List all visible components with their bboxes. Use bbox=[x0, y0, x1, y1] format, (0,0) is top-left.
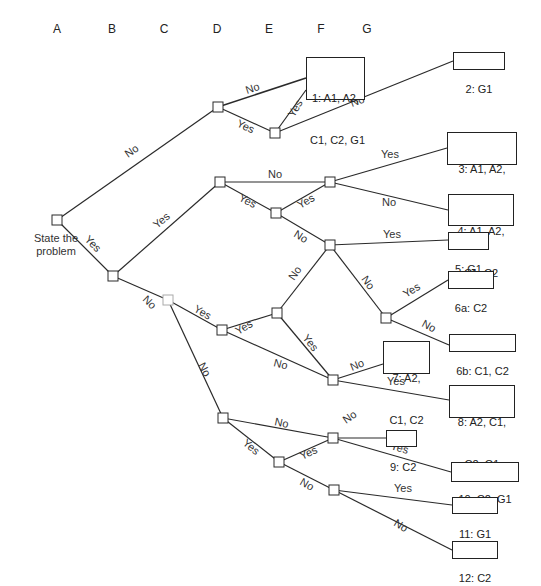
node-f6 bbox=[329, 485, 339, 495]
leaf-text: 7: A2, bbox=[387, 371, 426, 385]
edge-label: Yes bbox=[241, 436, 263, 457]
leaf-8: 8: A2, C1, C2, G1 bbox=[449, 385, 515, 418]
edge-label: No bbox=[196, 360, 213, 378]
node-f5 bbox=[328, 433, 338, 443]
leaf-7: 7: A2, C1, C2 bbox=[383, 341, 430, 374]
edge-label: No bbox=[286, 264, 304, 282]
edge-label: No bbox=[420, 317, 438, 334]
edge-label: Yes bbox=[381, 148, 399, 160]
leaf-9: 9: C2 bbox=[386, 430, 417, 447]
leaf-11: 11: G1 bbox=[452, 497, 498, 514]
leaf-text: 12: C2 bbox=[456, 571, 494, 585]
node-e4 bbox=[274, 457, 284, 467]
column-label-g: G bbox=[362, 22, 371, 36]
node-root bbox=[52, 215, 62, 225]
node-g6 bbox=[381, 313, 391, 323]
leaf-text: 2: G1 bbox=[457, 82, 501, 96]
edge-label: Yes bbox=[285, 97, 305, 119]
column-label-b: B bbox=[108, 22, 116, 36]
leaf-4: 4: A1, A2, C1, C2 bbox=[448, 194, 514, 226]
leaf-6a: 6a: C2 bbox=[448, 271, 494, 289]
leaf-text: 6b: C1, C2 bbox=[453, 364, 512, 378]
node-b bbox=[108, 271, 118, 281]
edge-label: Yes bbox=[235, 117, 257, 136]
edge-label: Yes bbox=[233, 317, 255, 337]
root-label: State the problem bbox=[20, 232, 92, 258]
leaf-text: 9: C2 bbox=[390, 460, 413, 474]
node-c-mid bbox=[163, 295, 173, 305]
node-f2 bbox=[325, 177, 335, 187]
leaf-1: 1: A1, A2, C1, C2, G1 bbox=[306, 57, 365, 100]
root-label-line2: problem bbox=[20, 245, 92, 258]
node-d-top bbox=[213, 102, 223, 112]
leaf-text: 8: A2, C1, bbox=[453, 415, 511, 429]
node-f3 bbox=[325, 240, 335, 250]
edge-label: No bbox=[141, 293, 159, 311]
node-d2 bbox=[215, 177, 225, 187]
leaf-3: 3: A1, A2, C1, C2, G1 bbox=[447, 132, 517, 165]
edge-label: No bbox=[340, 408, 358, 426]
node-f4 bbox=[328, 375, 338, 385]
node-d3 bbox=[217, 325, 227, 335]
leaf-text: 11: G1 bbox=[456, 527, 494, 541]
edge-label: Yes bbox=[401, 280, 423, 300]
edge-label: No bbox=[382, 196, 396, 208]
node-d4 bbox=[218, 413, 228, 423]
leaf-text: 6a: C2 bbox=[452, 301, 490, 315]
leaf-12: 12: C2 bbox=[452, 541, 498, 559]
edge-label: No bbox=[268, 168, 282, 180]
column-label-d: D bbox=[213, 22, 222, 36]
edge-label: No bbox=[392, 517, 410, 535]
edge-label: Yes bbox=[295, 191, 317, 211]
column-label-a: A bbox=[53, 22, 61, 36]
edge-label: No bbox=[359, 273, 377, 291]
edge-label: No bbox=[298, 475, 316, 492]
leaf-5: 5: G1 bbox=[448, 232, 489, 250]
node-e2 bbox=[271, 208, 281, 218]
leaf-2: 2: G1 bbox=[453, 52, 505, 70]
edge-labels: No Yes No Yes Yes No Yes No No Yes Yes N… bbox=[83, 80, 439, 534]
edge-label: Yes bbox=[237, 191, 259, 210]
edge-label: No bbox=[292, 228, 310, 246]
edge-label: Yes bbox=[383, 228, 401, 240]
leaf-text: 3: A1, A2, bbox=[451, 162, 513, 176]
edge-label: No bbox=[273, 356, 290, 371]
edge-label: No bbox=[122, 142, 140, 160]
edge-label: Yes bbox=[300, 332, 321, 354]
root-label-line1: State the bbox=[20, 232, 92, 245]
column-label-c: C bbox=[160, 22, 169, 36]
node-e3 bbox=[272, 308, 282, 318]
leaf-6b: 6b: C1, C2 bbox=[449, 334, 516, 352]
leaf-10: 10: C2, G1 bbox=[451, 462, 519, 482]
leaf-text: C1, C2 bbox=[387, 413, 426, 427]
column-label-f: F bbox=[317, 22, 324, 36]
node-e-top bbox=[270, 128, 280, 138]
leaf-text: C1, C2, G1 bbox=[310, 133, 361, 147]
leaf-text: 1: A1, A2, bbox=[310, 91, 361, 105]
column-label-e: E bbox=[265, 22, 273, 36]
edge-label: Yes bbox=[192, 302, 214, 322]
